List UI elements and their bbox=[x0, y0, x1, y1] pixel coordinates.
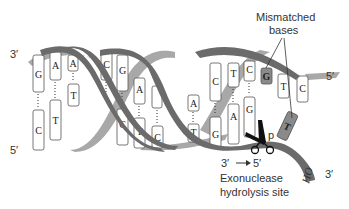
label-3prime-top-left: 3′ bbox=[10, 48, 18, 60]
label-5prime-top-right: 5′ bbox=[326, 70, 334, 82]
arrow-right-icon bbox=[236, 160, 251, 166]
hydroxyl-label: HO bbox=[299, 166, 315, 185]
svg-text:G: G bbox=[212, 129, 219, 140]
svg-text:G: G bbox=[35, 69, 42, 80]
svg-text:C: C bbox=[35, 125, 42, 136]
svg-text:G: G bbox=[263, 71, 271, 82]
front-strand bbox=[40, 46, 315, 182]
svg-text:C: C bbox=[299, 83, 306, 94]
phosphate-label: p bbox=[268, 129, 274, 141]
svg-text:A: A bbox=[52, 60, 60, 71]
svg-text:G: G bbox=[246, 104, 253, 115]
svg-text:T: T bbox=[280, 81, 286, 92]
direction-from: 3′ bbox=[221, 157, 229, 169]
svg-text:A: A bbox=[69, 58, 77, 69]
svg-text:T: T bbox=[52, 115, 58, 126]
direction-to: 5′ bbox=[253, 157, 261, 169]
svg-text:G: G bbox=[119, 65, 126, 76]
mismatched-label-line1: Mismatched bbox=[256, 11, 315, 23]
dna-diagram: G C A T A T C G C A T C A bbox=[0, 0, 349, 209]
mismatched-label-line2: bases bbox=[269, 24, 299, 36]
hydrolysis-site-label: hydrolysis site bbox=[220, 186, 289, 198]
svg-text:A: A bbox=[230, 111, 238, 122]
exonuclease-label: Exonuclease bbox=[220, 172, 283, 184]
svg-text:T: T bbox=[70, 90, 76, 101]
svg-text:T: T bbox=[230, 68, 236, 79]
svg-text:A: A bbox=[190, 98, 198, 109]
mismatched-base-t: T bbox=[276, 111, 298, 141]
label-3prime-bottom-right: 3′ bbox=[325, 168, 333, 180]
dna-helix-svg: G C A T A T C G C A T C A bbox=[0, 0, 349, 209]
svg-text:C: C bbox=[246, 64, 253, 75]
label-5prime-bottom-left: 5′ bbox=[10, 144, 18, 156]
svg-text:A: A bbox=[136, 84, 144, 95]
svg-text:C: C bbox=[212, 76, 219, 87]
